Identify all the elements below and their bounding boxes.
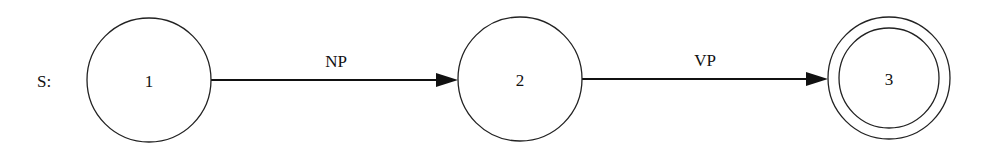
- start-label: S:: [37, 72, 51, 91]
- state-diagram: S: NP VP 1 2 3: [0, 0, 986, 163]
- edge-label-vp: VP: [694, 51, 716, 70]
- arrowhead-icon: [806, 72, 828, 86]
- state-label: 1: [145, 72, 154, 91]
- edge-np: NP: [211, 52, 458, 87]
- state-label: 3: [885, 70, 894, 89]
- state-node-1: 1: [87, 18, 211, 142]
- arrowhead-icon: [436, 73, 458, 87]
- edge-vp: VP: [582, 51, 828, 86]
- edge-label-np: NP: [325, 52, 347, 71]
- state-node-3-final: 3: [828, 17, 950, 139]
- state-node-2: 2: [458, 17, 582, 141]
- state-label: 2: [516, 71, 525, 90]
